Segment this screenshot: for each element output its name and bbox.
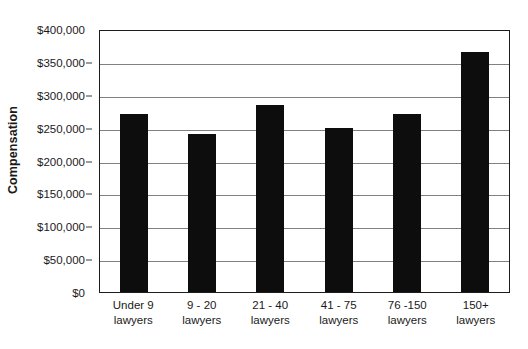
y-axis-tick-mark xyxy=(86,194,92,195)
x-axis-tick-label: 9 - 20lawyers xyxy=(168,298,237,328)
y-axis-tick-label: $100,000 xyxy=(37,221,85,233)
bar-slot xyxy=(236,31,304,292)
x-axis-label-line1: 150+ xyxy=(463,299,489,311)
bar xyxy=(120,114,148,292)
x-axis-tick-label: Under 9lawyers xyxy=(99,298,168,328)
bar xyxy=(256,105,284,292)
bar xyxy=(461,52,489,292)
y-axis-tick-label: $300,000 xyxy=(37,90,85,102)
x-axis-label-line2: lawyers xyxy=(373,313,442,328)
x-axis-tick-label: 150+lawyers xyxy=(442,298,511,328)
y-axis-tick-label: $350,000 xyxy=(37,57,85,69)
bar-slot xyxy=(100,31,168,292)
x-axis-tick-label: 41 - 75lawyers xyxy=(305,298,374,328)
x-axis-tick-label: 21 - 40lawyers xyxy=(236,298,305,328)
bar xyxy=(325,128,353,292)
bar-slot xyxy=(373,31,441,292)
x-axis-label-line1: 41 - 75 xyxy=(321,299,357,311)
x-axis-label-line2: lawyers xyxy=(99,313,168,328)
x-axis-tick-labels: Under 9lawyers9 - 20lawyers21 - 40lawyer… xyxy=(99,298,510,328)
y-axis-tick-label: $400,000 xyxy=(37,24,85,36)
x-axis-tick-label: 76 -150lawyers xyxy=(373,298,442,328)
y-axis-tick-mark xyxy=(86,128,92,129)
y-axis-tick-label: $0 xyxy=(72,287,85,299)
x-axis-label-line2: lawyers xyxy=(442,313,511,328)
bar xyxy=(188,134,216,292)
x-axis-label-line2: lawyers xyxy=(236,313,305,328)
y-axis-tick-label: $200,000 xyxy=(37,156,85,168)
x-axis-label-line1: 21 - 40 xyxy=(252,299,288,311)
y-axis-tick-mark xyxy=(86,161,92,162)
plot-area xyxy=(99,30,510,293)
bar-chart: Compensation $400,000$350,000$300,000$25… xyxy=(0,0,528,349)
y-axis-tick-labels: $400,000$350,000$300,000$250,000$200,000… xyxy=(26,30,92,293)
y-axis-title-label: Compensation xyxy=(6,106,20,194)
y-axis-tick-label: $50,000 xyxy=(43,254,85,266)
y-axis-tick-mark xyxy=(86,62,92,63)
bar-slot xyxy=(441,31,509,292)
y-axis-tick-label: $250,000 xyxy=(37,123,85,135)
y-axis-title: Compensation xyxy=(0,0,26,300)
x-axis-label-line2: lawyers xyxy=(305,313,374,328)
x-axis-label-line1: 76 -150 xyxy=(388,299,427,311)
y-axis-tick-mark xyxy=(86,95,92,96)
x-axis-label-line2: lawyers xyxy=(168,313,237,328)
x-axis-label-line1: Under 9 xyxy=(113,299,154,311)
bars-container xyxy=(100,31,509,292)
bar-slot xyxy=(305,31,373,292)
y-axis-tick-label: $150,000 xyxy=(37,188,85,200)
x-axis-label-line1: 9 - 20 xyxy=(187,299,216,311)
y-axis-tick-mark xyxy=(86,260,92,261)
y-axis-tick-mark xyxy=(86,227,92,228)
bar xyxy=(393,114,421,292)
bar-slot xyxy=(168,31,236,292)
